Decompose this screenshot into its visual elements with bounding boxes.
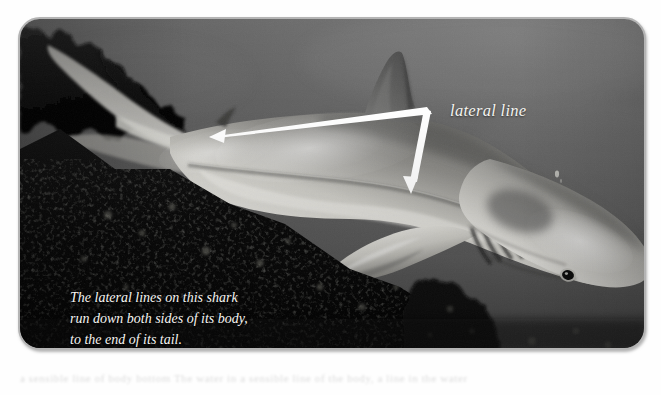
shark-head <box>459 159 644 287</box>
second-dorsal-fin <box>216 107 236 127</box>
lateral-line-label: lateral line <box>450 101 526 121</box>
annotation-arrows <box>209 107 432 194</box>
water-particles <box>224 166 562 191</box>
figure-page: a sensible line of body bottom The water… <box>0 0 661 395</box>
shark-body <box>155 102 625 285</box>
first-dorsal-fin <box>364 51 424 123</box>
coral-rock-right-spur <box>404 279 500 348</box>
leader-arrow-to-body <box>410 109 431 182</box>
gill-slits <box>472 222 533 263</box>
shark-eye <box>558 267 577 284</box>
lateral-line-stripe <box>188 165 516 227</box>
figure-caption: The lateral lines on this shark run down… <box>70 287 248 348</box>
shark-caudal-region <box>48 45 236 173</box>
leader-arrow-to-flank <box>209 107 432 138</box>
page-bleed-through-text: a sensible line of body bottom The water… <box>20 372 638 386</box>
pectoral-fin <box>320 226 476 285</box>
coral-rock-upper-left <box>20 25 252 179</box>
underwater-photograph: lateral line The lateral lines on this s… <box>20 19 644 348</box>
photo-frame: lateral line The lateral lines on this s… <box>18 17 646 350</box>
pelvic-fin <box>256 215 300 247</box>
